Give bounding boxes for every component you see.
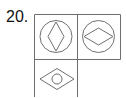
circle-icon <box>83 21 115 53</box>
cell-1-circle-with-vertical-diamond <box>40 21 72 53</box>
figure-matrix <box>0 0 126 97</box>
circle-icon <box>40 21 72 53</box>
vertical-diamond-icon <box>48 22 64 51</box>
cell-2-circle-with-horizontal-diamond <box>83 21 115 53</box>
grid-lines <box>35 15 121 98</box>
horizontal-diamond-icon <box>40 69 74 90</box>
small-circle-icon <box>52 74 62 84</box>
horizontal-diamond-icon <box>84 28 113 45</box>
cell-3-diamond-with-small-circle <box>40 69 74 90</box>
